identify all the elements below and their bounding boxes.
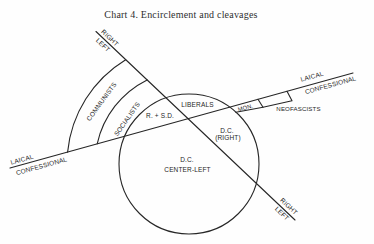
axis-label-laical-right: LAICAL [300, 70, 325, 83]
axis-label-laical-left: LAICAL [10, 153, 35, 166]
laical-confessional-axis-line [10, 73, 353, 168]
region-label-neofascists: NEOFASCISTS [276, 105, 320, 112]
region-label-dc-right-line1: D.C. [220, 127, 234, 134]
region-label-r-sd: R. + S.D. [146, 112, 174, 119]
dc-circle [119, 94, 259, 234]
region-label-dc-center-left-line1: D.C. [180, 156, 194, 163]
region-label-dc-center-left-line2: CENTER-LEFT [164, 166, 210, 173]
region-label-communists: COMMUNISTS [85, 80, 118, 122]
chart-title: Chart 4. Encirclement and cleavages [104, 9, 257, 20]
region-label-dc-right-line2: (RIGHT) [215, 134, 241, 142]
region-label-liberals: LIBERALS [181, 101, 214, 108]
diagram-page: Chart 4. Encirclement and cleavages RIGH… [0, 0, 374, 244]
cleavage-diagram: Chart 4. Encirclement and cleavages RIGH… [0, 0, 374, 244]
